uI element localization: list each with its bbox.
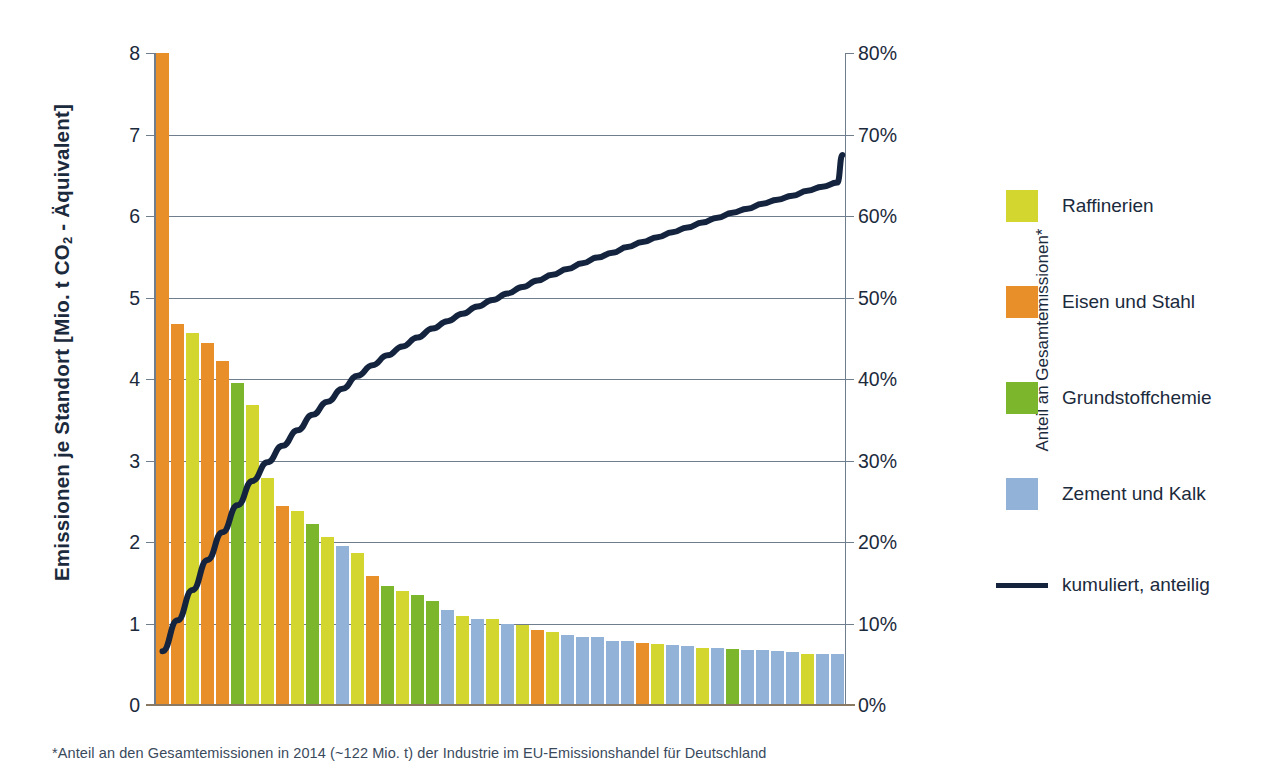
tickmark-right-10%: [845, 624, 854, 625]
tickmark-left-5: [146, 298, 155, 299]
y-tick-right-70%: 70%: [858, 123, 928, 146]
legend-item-eisen-und-stahl[interactable]: Eisen und Stahl: [1006, 286, 1195, 318]
legend-color-swatch-icon: [1006, 190, 1038, 222]
tickmark-right-30%: [845, 461, 854, 462]
y-axis-left-ticks: 012345678: [96, 0, 140, 780]
legend-color-swatch-icon: [1006, 382, 1038, 414]
cumulative-share-path: [163, 155, 843, 651]
legend-item-label: Eisen und Stahl: [1062, 291, 1195, 313]
tickmark-left-6: [146, 216, 155, 217]
tickmark-right-60%: [845, 216, 854, 217]
legend-item-label: kumuliert, anteilig: [1062, 574, 1210, 596]
cumulative-share-line: [155, 53, 845, 705]
chart-root: Emissionen je Standort [Mio. t CO2 - Äqu…: [0, 0, 1284, 780]
legend-line-icon: [996, 583, 1048, 588]
y-tick-left-2: 2: [96, 531, 140, 554]
tickmark-left-4: [146, 379, 155, 380]
tickmark-left-8: [146, 53, 155, 54]
legend-item-kumuliert-anteilig[interactable]: kumuliert, anteilig: [1006, 574, 1210, 596]
y-tick-right-60%: 60%: [858, 205, 928, 228]
y-tick-right-0%: 0%: [858, 694, 928, 717]
y-tick-right-20%: 20%: [858, 531, 928, 554]
legend-item-label: Grundstoffchemie: [1062, 387, 1212, 409]
tickmark-right-50%: [845, 298, 854, 299]
plot-area: [155, 53, 845, 705]
y-axis-left-title-post: - Äquivalent]: [50, 104, 73, 237]
tickmark-right-40%: [845, 379, 854, 380]
y-tick-left-5: 5: [96, 286, 140, 309]
y-tick-left-6: 6: [96, 205, 140, 228]
tickmark-right-80%: [845, 53, 854, 54]
axis-baseline: [146, 704, 855, 706]
tickmark-left-1: [146, 624, 155, 625]
legend-item-zement-und-kalk[interactable]: Zement und Kalk: [1006, 478, 1206, 510]
legend-item-grundstoffchemie[interactable]: Grundstoffchemie: [1006, 382, 1212, 414]
y-tick-left-8: 8: [96, 42, 140, 65]
tickmark-right-70%: [845, 135, 854, 136]
tickmark-left-3: [146, 461, 155, 462]
y-axis-right-ticks: 0%10%20%30%40%50%60%70%80%: [858, 0, 928, 780]
chart-footnote: *Anteil an den Gesamtemissionen in 2014 …: [52, 745, 767, 761]
tickmark-left-7: [146, 135, 155, 136]
y-tick-left-0: 0: [96, 694, 140, 717]
y-tick-left-7: 7: [96, 123, 140, 146]
y-tick-right-50%: 50%: [858, 286, 928, 309]
legend-item-label: Zement und Kalk: [1062, 483, 1206, 505]
y-axis-left-title-subscript: 2: [60, 237, 75, 244]
y-axis-left-title: Emissionen je Standort [Mio. t CO2 - Äqu…: [50, 23, 75, 663]
y-tick-right-80%: 80%: [858, 42, 928, 65]
y-tick-right-30%: 30%: [858, 449, 928, 472]
y-tick-left-1: 1: [96, 612, 140, 635]
legend-item-label: Raffinerien: [1062, 195, 1154, 217]
legend-color-swatch-icon: [1006, 286, 1038, 318]
legend-item-raffinerien[interactable]: Raffinerien: [1006, 190, 1154, 222]
y-tick-right-10%: 10%: [858, 612, 928, 635]
y-tick-left-3: 3: [96, 449, 140, 472]
tickmark-right-20%: [845, 542, 854, 543]
y-tick-left-4: 4: [96, 368, 140, 391]
tickmark-left-2: [146, 542, 155, 543]
y-tick-right-40%: 40%: [858, 368, 928, 391]
y-axis-left-title-pre: Emissionen je Standort [Mio. t CO: [50, 244, 73, 581]
legend-color-swatch-icon: [1006, 478, 1038, 510]
